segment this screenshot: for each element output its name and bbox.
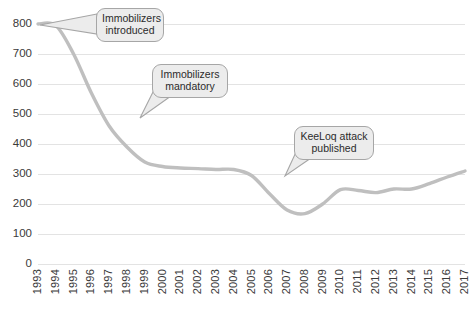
line-chart: 0100200300400500600700800 19931994199519… [0, 0, 474, 310]
x-axis-tick-label: 1996 [85, 269, 96, 294]
x-axis-tick-label: 1993 [32, 269, 43, 294]
x-axis-tick-label: 2007 [281, 269, 292, 294]
gridlines [38, 25, 465, 265]
x-axis-tick-label: 2009 [317, 269, 328, 294]
data-series-line [38, 23, 465, 214]
annotation-line-1: KeeLoq attack [300, 130, 368, 142]
y-axis-tick-label: 600 [2, 78, 32, 89]
x-axis-tick-label: 2006 [263, 269, 274, 294]
x-axis-tick-label: 1995 [68, 269, 79, 294]
annotation-immobilizers-mandatory: Immobilizers mandatory [152, 64, 228, 98]
annotation-immobilizers-introduced: Immobilizers introduced [96, 8, 164, 42]
x-axis-tick-label: 2002 [192, 269, 203, 294]
y-axis-tick-label: 800 [2, 18, 32, 29]
x-axis-tick-label: 2010 [334, 269, 345, 294]
y-axis-tick-label: 200 [2, 198, 32, 209]
annotation-line-2: published [300, 142, 368, 154]
x-axis-tick-label: 2012 [370, 269, 381, 294]
annotation-line-2: mandatory [158, 80, 222, 92]
x-axis-tick-label: 1998 [121, 269, 132, 294]
y-axis-tick-label: 500 [2, 108, 32, 119]
y-axis-tick-label: 300 [2, 168, 32, 179]
x-axis-tick-label: 2001 [174, 269, 185, 294]
x-axis-tick-label: 2011 [352, 269, 363, 293]
chart-canvas [0, 0, 474, 310]
y-axis-tick-label: 700 [2, 48, 32, 59]
x-axis-tick-label: 1999 [139, 269, 150, 294]
y-axis-tick-label: 400 [2, 138, 32, 149]
x-axis-tick-label: 2003 [210, 269, 221, 294]
annotation-line-1: Immobilizers [102, 12, 158, 24]
x-axis-tick-label: 2008 [299, 269, 310, 294]
x-axis-tick-label: 2004 [228, 269, 239, 294]
x-axis-tick-label: 1994 [50, 269, 61, 294]
x-axis-tick-label: 2014 [406, 269, 417, 294]
annotation-line-2: introduced [102, 24, 158, 36]
x-axis-tick-label: 2000 [157, 269, 168, 294]
annotation-line-1: Immobilizers [158, 68, 222, 80]
x-axis-tick-label: 2005 [246, 269, 257, 294]
x-axis-tick-label: 2016 [441, 269, 452, 294]
annotation-tail [40, 14, 97, 34]
x-axis-tick-label: 1997 [103, 269, 114, 294]
x-axis-tick-label: 2015 [423, 269, 434, 294]
x-axis-tick-label: 2013 [388, 269, 399, 294]
annotation-keeloq-attack-published: KeeLoq attack published [294, 126, 374, 160]
y-axis-tick-label: 0 [2, 258, 32, 269]
x-axis-tick-label: 2017 [459, 269, 470, 294]
y-axis-tick-label: 100 [2, 228, 32, 239]
